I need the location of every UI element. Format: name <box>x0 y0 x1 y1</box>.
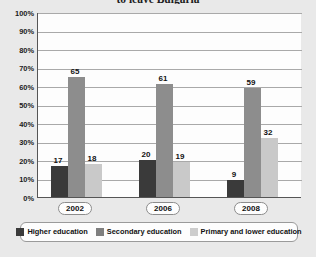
bar-value-label: 65 <box>63 68 88 76</box>
bar-value-label: 19 <box>168 153 193 161</box>
bar-value-label: 20 <box>134 151 159 159</box>
y-axis-tick-label: 100% <box>0 10 34 17</box>
legend-item: Secondary education <box>96 228 182 236</box>
category-label-2002: 2002 <box>58 202 92 215</box>
bar-chart-figure: to leave Bulgaria 100%90%80%70%60%50%40%… <box>0 0 316 257</box>
gridline <box>38 50 302 51</box>
bar <box>244 88 261 197</box>
bar <box>261 138 278 197</box>
bar-value-label: 59 <box>239 79 264 87</box>
bar <box>156 84 173 197</box>
bar <box>51 166 68 197</box>
y-axis-tick-label: 70% <box>0 65 34 72</box>
y-axis-tick-label: 50% <box>0 102 34 109</box>
legend-item: Primary and lower education <box>190 228 302 236</box>
legend-label: Primary and lower education <box>201 228 302 236</box>
y-axis-tick-label: 20% <box>0 158 34 165</box>
y-axis-tick-label: 10% <box>0 176 34 183</box>
category-label-2008: 2008 <box>234 202 268 215</box>
y-axis-tick-label: 30% <box>0 139 34 146</box>
bar <box>85 164 102 197</box>
bar-value-label: 18 <box>80 155 105 163</box>
gridline <box>38 32 302 33</box>
y-axis-tick-label: 40% <box>0 121 34 128</box>
y-axis-tick-label: 60% <box>0 84 34 91</box>
bar-value-label: 32 <box>256 129 281 137</box>
bar-value-label: 9 <box>222 171 247 179</box>
y-axis-tick-label: 80% <box>0 47 34 54</box>
bar <box>68 77 85 197</box>
bar-value-label: 61 <box>151 75 176 83</box>
legend-label: Higher education <box>27 228 87 236</box>
chart-legend: Higher educationSecondary educationPrima… <box>20 222 298 242</box>
legend-label: Secondary education <box>107 228 182 236</box>
gridline <box>38 13 302 14</box>
bar <box>173 162 190 197</box>
bar <box>139 160 156 197</box>
bar <box>227 180 244 197</box>
legend-swatch-icon <box>96 228 104 236</box>
plot-area <box>37 13 301 198</box>
legend-item: Higher education <box>16 228 87 236</box>
bar-value-label: 17 <box>46 157 71 165</box>
y-axis-tick-label: 90% <box>0 28 34 35</box>
y-axis-tick-label: 0% <box>0 195 34 202</box>
chart-title: to leave Bulgaria <box>0 0 316 4</box>
legend-swatch-icon <box>16 228 24 236</box>
category-label-2006: 2006 <box>146 202 180 215</box>
legend-swatch-icon <box>190 228 198 236</box>
